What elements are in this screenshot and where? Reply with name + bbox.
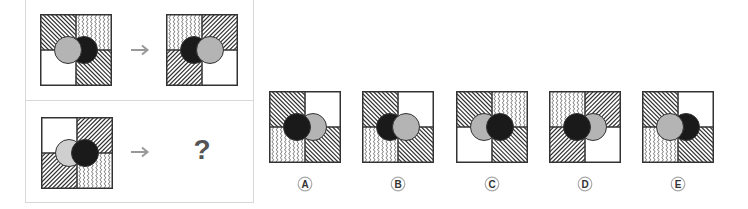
svg-text:D: D (581, 179, 588, 190)
panel-divider (25, 100, 254, 101)
option-c-label[interactable]: C (484, 176, 500, 192)
option-d-label[interactable]: D (577, 176, 593, 192)
example-target-figure (166, 14, 238, 86)
example-source-figure (40, 14, 112, 86)
svg-text:E: E (675, 179, 682, 190)
query-figure (41, 117, 113, 189)
option-d-figure[interactable] (549, 91, 621, 163)
option-c-figure[interactable] (456, 91, 528, 163)
svg-text:C: C (488, 179, 495, 190)
arrow-right-icon (130, 44, 150, 56)
option-e-figure[interactable] (642, 91, 714, 163)
unknown-answer-mark: ? (190, 133, 214, 167)
option-a-label[interactable]: A (297, 176, 313, 192)
option-b-label[interactable]: B (390, 176, 406, 192)
svg-text:B: B (394, 179, 401, 190)
arrow-right-icon (130, 146, 150, 158)
svg-text:A: A (301, 179, 308, 190)
option-e-label[interactable]: E (670, 176, 686, 192)
option-a-figure[interactable] (269, 91, 341, 163)
option-b-figure[interactable] (362, 91, 434, 163)
